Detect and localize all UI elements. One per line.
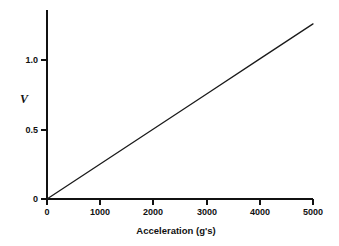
x-tick-label-0: 0	[44, 207, 49, 217]
y-tick-label-1-0: 1.0	[12, 55, 38, 65]
x-tick-label-1000: 1000	[90, 207, 110, 217]
y-axis-title: V	[20, 92, 28, 107]
x-axis-ticks	[47, 199, 313, 205]
y-tick-label-0: 0	[12, 194, 38, 204]
y-tick-label-0-5: 0.5	[12, 125, 38, 135]
y-axis-ticks	[41, 60, 47, 199]
x-tick-label-3000: 3000	[197, 207, 217, 217]
x-tick-label-5000: 5000	[303, 207, 323, 217]
x-tick-label-4000: 4000	[250, 207, 270, 217]
data-series-line	[47, 24, 313, 199]
x-axis-title: Acceleration (g's)	[136, 225, 215, 236]
chart-figure: 0 1000 2000 3000 4000 5000 0 0.5 1.0 V A…	[0, 0, 339, 246]
x-tick-label-2000: 2000	[143, 207, 163, 217]
axes-group	[47, 10, 313, 199]
chart-plot-area	[0, 0, 339, 246]
